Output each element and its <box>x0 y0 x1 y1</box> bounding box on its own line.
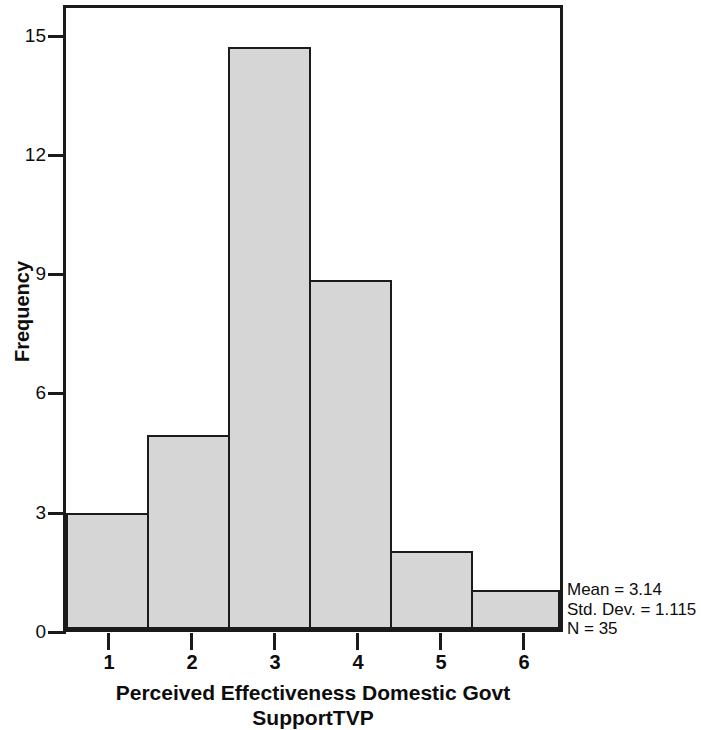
x-tick-label-5: 5 <box>421 652 461 672</box>
x-tick-label-3: 3 <box>255 652 295 672</box>
x-axis-title: Perceived Effectiveness Domestic Govt Su… <box>63 680 563 730</box>
bar-category-2 <box>147 435 230 629</box>
y-tick-label-6: 6 <box>6 383 46 402</box>
x-tick-mark-5 <box>439 633 442 650</box>
x-tick-mark-2 <box>190 633 193 650</box>
x-tick-label-4: 4 <box>338 652 378 672</box>
x-tick-label-6: 6 <box>504 652 544 672</box>
bar-category-5 <box>390 551 473 629</box>
x-tick-mark-6 <box>522 633 525 650</box>
x-tick-mark-1 <box>107 633 110 650</box>
x-axis-title-line-2: SupportTVP <box>63 705 563 730</box>
y-axis-title: Frequency <box>11 212 34 412</box>
bar-category-6 <box>471 590 560 629</box>
bar-category-3 <box>228 47 311 629</box>
bars-layer <box>66 8 560 629</box>
y-tick-label-3: 3 <box>6 503 46 522</box>
statistics-annotation: Mean = 3.14 Std. Dev. = 1.115 N = 35 <box>567 580 701 639</box>
bar-category-1 <box>66 513 149 629</box>
stat-n: N = 35 <box>567 619 701 639</box>
x-tick-mark-4 <box>356 633 359 650</box>
bar-category-4 <box>309 280 392 629</box>
stat-std-dev: Std. Dev. = 1.115 <box>567 600 701 620</box>
x-axis-title-line-1: Perceived Effectiveness Domestic Govt <box>116 681 511 704</box>
y-tick-label-15: 15 <box>6 26 46 45</box>
y-tick-label-9: 9 <box>6 264 46 283</box>
x-tick-mark-3 <box>273 633 276 650</box>
x-tick-label-1: 1 <box>89 652 129 672</box>
y-tick-label-0: 0 <box>6 622 46 641</box>
y-tick-label-12: 12 <box>6 145 46 164</box>
x-tick-label-2: 2 <box>172 652 212 672</box>
stat-mean: Mean = 3.14 <box>567 580 701 600</box>
